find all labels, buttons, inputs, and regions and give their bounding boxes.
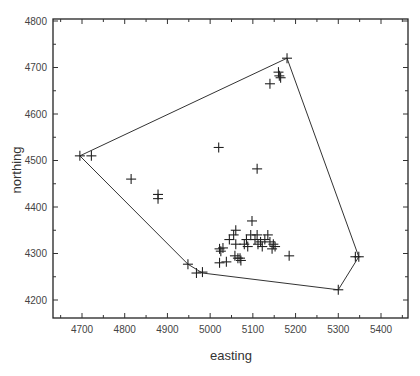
data-point (214, 142, 224, 152)
convex-hull (80, 58, 359, 290)
data-point (191, 268, 201, 278)
y-tick-label: 4600 (25, 109, 48, 120)
data-point (247, 216, 257, 226)
data-point (265, 79, 275, 89)
data-point (231, 225, 241, 235)
data-point (284, 251, 294, 261)
x-tick-label: 5200 (284, 324, 307, 335)
data-point (282, 53, 292, 63)
x-tick-label: 4800 (114, 324, 137, 335)
data-point (229, 230, 239, 240)
y-tick-label: 4700 (25, 62, 48, 73)
data-points (75, 53, 364, 295)
data-point (257, 242, 267, 252)
x-tick-label: 5400 (370, 324, 393, 335)
data-point (235, 253, 245, 263)
x-tick-label: 5300 (327, 324, 350, 335)
plot-frame (53, 19, 408, 318)
scatter-chart: 47004800490050005100520053005400 4200430… (0, 0, 420, 376)
x-tick-label: 4700 (71, 324, 94, 335)
data-point (224, 235, 234, 245)
x-tick-label: 5100 (242, 324, 265, 335)
y-axis-title: northing (9, 147, 24, 194)
data-point (252, 164, 262, 174)
data-point (153, 194, 163, 204)
y-tick-label: 4300 (25, 248, 48, 259)
y-tick-label: 4200 (25, 295, 48, 306)
x-axis: 47004800490050005100520053005400 (61, 19, 403, 335)
y-axis: 4200430044004500460047004800 (25, 16, 408, 306)
data-point (126, 174, 136, 184)
data-point (241, 235, 251, 245)
x-tick-label: 5000 (199, 324, 222, 335)
data-point (215, 258, 225, 268)
data-point (197, 267, 207, 277)
y-tick-label: 4800 (25, 16, 48, 27)
y-tick-label: 4400 (25, 202, 48, 213)
data-point (276, 73, 286, 83)
y-tick-label: 4500 (25, 155, 48, 166)
x-tick-label: 4900 (156, 324, 179, 335)
data-point (333, 285, 343, 295)
x-axis-title: easting (210, 348, 252, 363)
data-point (231, 239, 241, 249)
data-point (221, 257, 231, 267)
